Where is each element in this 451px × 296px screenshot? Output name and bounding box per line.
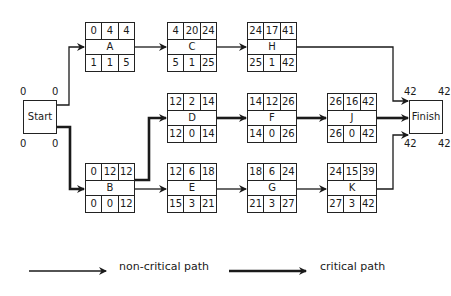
activity-name: G: [248, 180, 296, 196]
activity-node-d: 12214 D 12014: [167, 93, 217, 143]
legend-critical-label: critical path: [320, 260, 385, 273]
latest-finish: 21: [201, 196, 216, 212]
slack: 3: [264, 196, 280, 212]
earliest-start: 12: [168, 164, 184, 180]
latest-start: 27: [328, 196, 344, 212]
activity-name: H: [248, 39, 296, 55]
duration: 17: [264, 23, 280, 39]
duration: 4: [102, 23, 118, 39]
earliest-start: 4: [168, 23, 184, 39]
slack: 1: [184, 55, 200, 71]
activity-node-h: 241741 H 25142: [247, 22, 297, 72]
latest-start: 14: [248, 126, 264, 142]
latest-start: 15: [168, 196, 184, 212]
earliest-start: 24: [328, 164, 344, 180]
earliest-start: 12: [168, 94, 184, 110]
activity-name: B: [86, 180, 134, 196]
latest-finish: 42: [361, 196, 376, 212]
earliest-start: 26: [328, 94, 344, 110]
duration: 6: [184, 164, 200, 180]
start-top-left-value: 0: [20, 86, 26, 97]
latest-finish: 42: [361, 126, 376, 142]
activity-node-f: 141226 F 14026: [247, 93, 297, 143]
activity-name: E: [168, 180, 216, 196]
earliest-finish: 26: [281, 94, 296, 110]
duration: 12: [102, 164, 118, 180]
duration: 15: [344, 164, 360, 180]
duration: 16: [344, 94, 360, 110]
latest-start: 5: [168, 55, 184, 71]
activity-node-g: 18624 G 21327: [247, 163, 297, 213]
slack: 0: [184, 126, 200, 142]
slack: 0: [344, 126, 360, 142]
earliest-start: 14: [248, 94, 264, 110]
duration: 2: [184, 94, 200, 110]
earliest-start: 0: [86, 23, 102, 39]
activity-node-e: 12618 E 15321: [167, 163, 217, 213]
earliest-finish: 12: [119, 164, 134, 180]
activity-name: A: [86, 39, 134, 55]
activity-name: K: [328, 180, 376, 196]
slack: 3: [184, 196, 200, 212]
finish-node: Finish: [409, 100, 443, 134]
earliest-start: 18: [248, 164, 264, 180]
start-top-right-value: 0: [52, 86, 58, 97]
slack: 0: [102, 196, 118, 212]
earliest-start: 0: [86, 164, 102, 180]
finish-bottom-right-value: 42: [438, 138, 451, 149]
start-bottom-left-value: 0: [20, 138, 26, 149]
latest-finish: 26: [281, 126, 296, 142]
earliest-finish: 42: [361, 94, 376, 110]
earliest-finish: 24: [281, 164, 296, 180]
activity-node-j: 261642 J 26042: [327, 93, 377, 143]
earliest-finish: 14: [201, 94, 216, 110]
start-bottom-right-value: 0: [52, 138, 58, 149]
activity-name: C: [168, 39, 216, 55]
slack: 1: [264, 55, 280, 71]
duration: 20: [184, 23, 200, 39]
edge-start-a: [57, 47, 84, 105]
activity-name: J: [328, 110, 376, 126]
activity-node-k: 241539 K 27342: [327, 163, 377, 213]
duration: 6: [264, 164, 280, 180]
earliest-start: 24: [248, 23, 264, 39]
duration: 12: [264, 94, 280, 110]
activity-name: F: [248, 110, 296, 126]
latest-start: 21: [248, 196, 264, 212]
latest-finish: 42: [281, 55, 296, 71]
latest-start: 26: [328, 126, 344, 142]
activity-node-c: 42024 C 5125: [167, 22, 217, 72]
earliest-finish: 41: [281, 23, 296, 39]
latest-finish: 12: [119, 196, 134, 212]
earliest-finish: 39: [361, 164, 376, 180]
edge-start-b: [57, 127, 84, 189]
finish-top-right-value: 42: [438, 86, 451, 97]
latest-finish: 25: [201, 55, 216, 71]
latest-finish: 14: [201, 126, 216, 142]
activity-name: D: [168, 110, 216, 126]
earliest-finish: 24: [201, 23, 216, 39]
activity-node-a: 044 A 115: [85, 22, 135, 72]
slack: 0: [264, 126, 280, 142]
latest-finish: 5: [119, 55, 134, 71]
legend-non-critical-label: non-critical path: [119, 260, 209, 273]
earliest-finish: 18: [201, 164, 216, 180]
slack: 1: [102, 55, 118, 71]
latest-start: 0: [86, 196, 102, 212]
earliest-finish: 4: [119, 23, 134, 39]
start-node: Start: [23, 100, 57, 134]
slack: 3: [344, 196, 360, 212]
finish-top-left-value: 42: [404, 86, 417, 97]
latest-start: 25: [248, 55, 264, 71]
latest-start: 12: [168, 126, 184, 142]
activity-node-b: 01212 B 0012: [85, 163, 135, 213]
edge-b-d: [135, 118, 166, 180]
finish-bottom-left-value: 42: [404, 138, 417, 149]
latest-finish: 27: [281, 196, 296, 212]
latest-start: 1: [86, 55, 102, 71]
